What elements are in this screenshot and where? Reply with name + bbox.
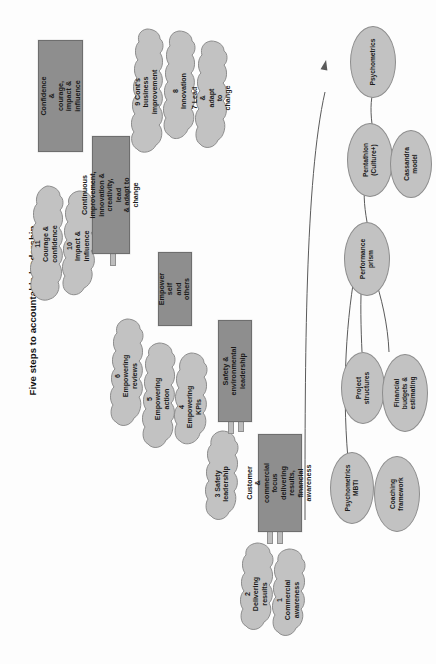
ellipse-performance-prism[interactable]: Performance prism	[344, 222, 390, 296]
cloud-continuous-business[interactable]: 9 Cont's business improvement	[130, 28, 164, 156]
cloud-delivering-results[interactable]: 2 Delivering results	[240, 542, 274, 646]
stub-connector	[110, 252, 116, 266]
arrowhead-spine	[321, 59, 330, 70]
diagram-canvas: Five steps to accountable leadership 11 …	[0, 0, 436, 664]
cloud-empowering-action[interactable]: 5 Empowering action	[142, 342, 176, 456]
step-box-confidence-courage[interactable]: Confidence & courage, impact & influence	[38, 40, 83, 152]
ellipse-project-structures[interactable]: Project structures	[341, 352, 385, 424]
cloud-empowering-reviews[interactable]: 6 Empowering reviews	[110, 318, 144, 434]
ellipse-coaching-framework[interactable]: Coaching framework	[374, 456, 420, 532]
step-box-continuous-improvement[interactable]: Continuous improvement, innovation & cre…	[92, 136, 130, 254]
cloud-commercial-awareness[interactable]: 1 Commercial awareness	[272, 548, 306, 652]
ellipse-label: Coaching framework	[389, 477, 405, 510]
ellipse-label: Performance prism	[359, 239, 375, 279]
ellipse-financial-budgets[interactable]: Financial budgets & estimating	[382, 354, 428, 432]
ellipse-pentathlon[interactable]: Pentathlon (Culture+)	[347, 123, 393, 197]
ellipse-label: Cassandra model	[403, 147, 419, 181]
ellipse-label: Financial budgets & estimating	[393, 377, 416, 410]
step-box-empower[interactable]: Empower self and others	[158, 252, 192, 326]
ellipse-label: Pentathlon (Culture+)	[362, 143, 378, 177]
wire-spine	[305, 92, 325, 520]
step-label: Empower self and others	[158, 273, 192, 305]
cloud-safety-leadership[interactable]: 3 Safety leadership	[205, 430, 239, 538]
ellipse-label: Psychometrics	[369, 39, 377, 86]
cloud-innovation[interactable]: 8 Innovation	[163, 30, 196, 152]
step-box-customer-commercial[interactable]: Customer & commercial focus delivering r…	[258, 434, 302, 532]
ellipse-label: Psychometrics MBTI	[344, 465, 360, 512]
step-label: Confidence & courage, impact & influence	[39, 76, 81, 115]
ellipse-psychometrics[interactable]: Psychometrics	[350, 26, 396, 98]
cloud-lead-adapt-change[interactable]: 7 Lead & adapt to change	[195, 40, 228, 156]
ellipse-psychometrics-mbti[interactable]: Psychometrics MBTI	[330, 452, 374, 524]
cloud-courage-confidence[interactable]: 11 Courage & confidence	[30, 185, 64, 303]
ellipse-cassandra-model[interactable]: Cassandra model	[390, 130, 432, 198]
cloud-impact-influence[interactable]: 10 Impact & influence	[62, 190, 96, 302]
ellipse-label: Project structures	[355, 372, 371, 404]
step-box-safety-environmental[interactable]: Safety & environmental leadership	[218, 320, 252, 422]
step-label: Safety & environmental leadership	[222, 346, 247, 395]
cloud-empowering-kpis[interactable]: 4 Empowering KPIs	[174, 352, 208, 462]
